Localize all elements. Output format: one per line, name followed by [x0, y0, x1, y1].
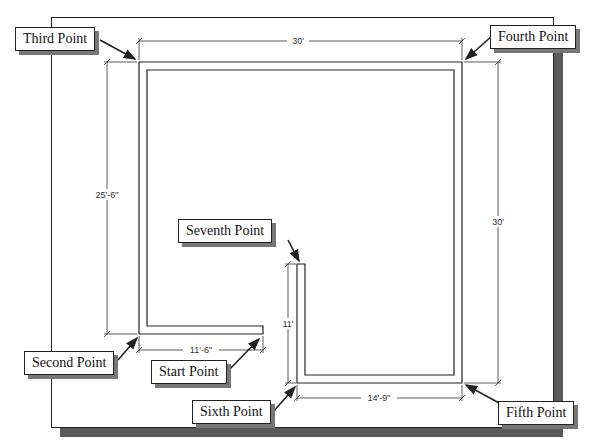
sixth-point-arrow — [273, 387, 295, 412]
dimension-lines — [104, 38, 501, 401]
callout-second-point: Second Point — [24, 351, 114, 375]
dim-right-height: 30' — [492, 217, 504, 227]
callout-sixth-point: Sixth Point — [192, 400, 271, 424]
dim-left-height: 25'-6" — [96, 190, 119, 200]
seventh-point-arrow — [288, 240, 299, 261]
fourth-point-arrow — [466, 36, 492, 59]
dim-inner-vertical: 11' — [282, 319, 293, 329]
callout-start-point: Start Point — [151, 360, 227, 384]
start-point-arrow — [227, 339, 259, 372]
dim-bottom-left-width: 11'-6" — [190, 345, 212, 355]
third-point-arrow — [100, 40, 135, 59]
leader-arrows — [100, 36, 501, 412]
fifth-point-arrow — [466, 385, 501, 404]
callout-seventh-point: Seventh Point — [178, 219, 272, 243]
callout-fourth-point: Fourth Point — [490, 25, 576, 49]
callout-third-point: Third Point — [15, 27, 95, 51]
second-point-arrow — [118, 338, 137, 360]
dim-bottom-right-width: 14'-9" — [368, 393, 391, 403]
floor-plan-diagram: 30' 25'-6" 30' 11'-6" 11' 14'-9" Third P… — [0, 0, 594, 445]
floor-plan-outline: 30' 25'-6" 30' 11'-6" 11' 14'-9" — [0, 0, 594, 445]
dim-top-width: 30' — [292, 36, 304, 46]
callout-fifth-point: Fifth Point — [498, 401, 574, 425]
